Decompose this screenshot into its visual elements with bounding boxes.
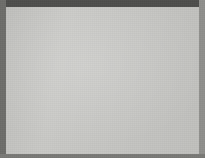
board-frame-left [0, 0, 6, 158]
go-board-scan [0, 0, 205, 158]
board-frame-right [199, 0, 205, 158]
board-surface[interactable] [6, 7, 199, 154]
board-frame-top [0, 0, 205, 7]
board-frame-bottom [0, 154, 205, 158]
lighting-vignette [6, 7, 199, 154]
